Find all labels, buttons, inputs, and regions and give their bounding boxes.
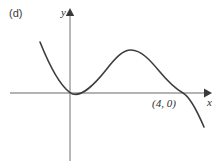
y-axis-label: y — [61, 6, 66, 18]
polynomial-curve — [40, 42, 204, 127]
x-axis-label: x — [207, 96, 212, 108]
graph-canvas — [0, 0, 224, 162]
figure-panel: (d) y x (4, 0) — [0, 0, 224, 162]
x-intercept-label: (4, 0) — [152, 97, 176, 109]
y-axis-arrowhead — [66, 8, 74, 16]
part-label: (d) — [9, 7, 22, 19]
